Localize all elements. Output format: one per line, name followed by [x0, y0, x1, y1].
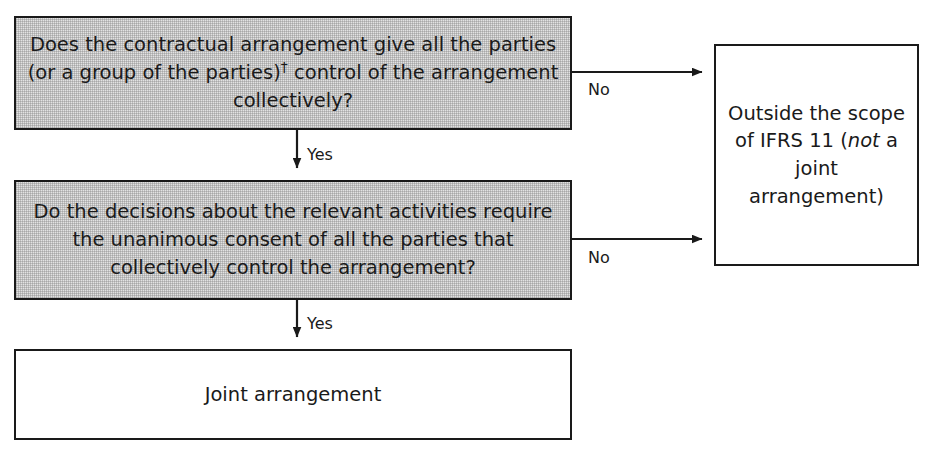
decision-node-collective-control-label: Does the contractual arrangement give al…: [26, 31, 560, 114]
decision-node-unanimous-consent-label: Do the decisions about the relevant acti…: [26, 198, 560, 281]
edge-label-q2-yes: Yes: [307, 316, 333, 332]
decision-node-unanimous-consent: Do the decisions about the relevant acti…: [14, 180, 572, 300]
edge-label-q1-no: No: [588, 82, 610, 98]
edge-label-q2-no: No: [588, 250, 610, 266]
outside-text-italic: not: [848, 129, 880, 152]
terminal-node-joint-arrangement-label: Joint arrangement: [26, 381, 560, 409]
flowchart-canvas: Does the contractual arrangement give al…: [0, 0, 932, 453]
terminal-node-joint-arrangement: Joint arrangement: [14, 349, 572, 440]
terminal-node-outside-scope-label: Outside the scope of IFRS 11 (not a join…: [726, 100, 907, 211]
terminal-node-outside-scope: Outside the scope of IFRS 11 (not a join…: [714, 44, 919, 266]
decision-node-collective-control: Does the contractual arrangement give al…: [14, 16, 572, 130]
dagger-footnote-marker: †: [281, 59, 288, 75]
edge-label-q1-yes: Yes: [307, 147, 333, 163]
